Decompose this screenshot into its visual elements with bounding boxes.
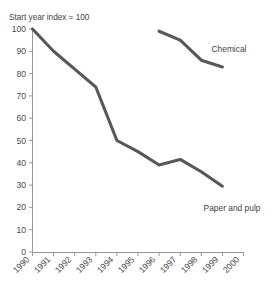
x-tick-1995: 1995 (116, 254, 137, 275)
x-tick-1994: 1994 (95, 254, 116, 275)
y-tick-10: 10 (16, 225, 26, 235)
y-tick-80: 80 (16, 69, 26, 79)
series-label-chemical: Chemical (212, 44, 247, 54)
y-tick-60: 60 (16, 113, 26, 123)
x-tick-1991: 1991 (32, 254, 53, 275)
line-chart: Start year index = 100 100 90 80 70 60 (0, 0, 277, 284)
y-tick-40: 40 (16, 158, 26, 168)
x-tick-1998: 1998 (179, 254, 200, 275)
series-label-paper-and-pulp: Paper and pulp (204, 203, 261, 213)
x-tick-1990: 1990 (11, 254, 32, 275)
x-tick-1996: 1996 (137, 254, 158, 275)
x-axis-labels: 1990 1991 1992 1993 1994 1995 1996 1997 … (11, 254, 242, 275)
x-tick-1993: 1993 (74, 254, 95, 275)
y-tick-90: 90 (16, 46, 26, 56)
chart-container: Start year index = 100 100 90 80 70 60 (0, 0, 277, 284)
x-tick-1997: 1997 (158, 254, 179, 275)
y-tick-50: 50 (16, 136, 26, 146)
chart-title: Start year index = 100 (9, 13, 90, 22)
y-axis-ticks (29, 29, 33, 252)
y-tick-20: 20 (16, 202, 26, 212)
x-tick-2000: 2000 (221, 254, 242, 275)
x-tick-1999: 1999 (200, 254, 221, 275)
y-tick-100: 100 (12, 24, 27, 34)
y-axis-labels: 100 90 80 70 60 50 40 30 20 10 0 (12, 24, 27, 257)
x-tick-1992: 1992 (53, 254, 74, 275)
y-tick-30: 30 (16, 180, 26, 190)
y-tick-70: 70 (16, 91, 26, 101)
